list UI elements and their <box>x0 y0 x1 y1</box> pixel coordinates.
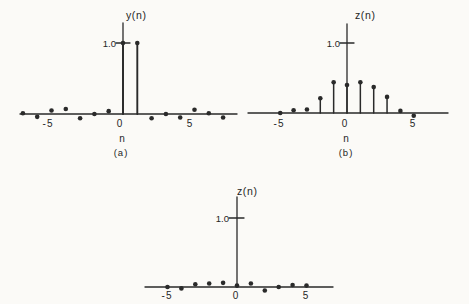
plot-a-caption: (a) <box>101 147 141 158</box>
plot-b-caption: (b) <box>326 147 366 158</box>
plot-b-xtick-neg5: -5 <box>268 118 290 129</box>
stem-plot-a: y(n) 1.0 -5 0 5 n (a) <box>0 0 245 165</box>
plot-c-xtick-0: 0 <box>225 290 247 301</box>
plot-a-x-axis-label: n <box>111 133 133 144</box>
plot-c-xtick-neg5: -5 <box>156 290 178 301</box>
figure-canvas: y(n) 1.0 -5 0 5 n (a) z(n) 1.0 -5 0 5 n … <box>0 0 469 304</box>
plot-b-ytick-label: 1.0 <box>316 38 340 49</box>
plot-b-xtick-0: 0 <box>334 118 356 129</box>
plot-c-y-axis-label: z(n) <box>237 186 257 197</box>
plot-a-ytick-label: 1.0 <box>92 38 116 49</box>
plot-a-y-axis-label: y(n) <box>126 10 146 21</box>
stem-plot-b: z(n) 1.0 -5 0 5 n (b) <box>235 0 469 165</box>
stem-plot-c: z(n) 1.0 -5 0 5 <box>120 180 380 304</box>
plot-a-xtick-0: 0 <box>109 118 131 129</box>
plot-b-y-axis-label: z(n) <box>355 10 375 21</box>
stem-plot-c-drawing <box>120 180 380 304</box>
plot-a-xtick-neg5: -5 <box>37 118 59 129</box>
plot-a-xtick-5: 5 <box>179 118 201 129</box>
plot-b-xtick-5: 5 <box>402 118 424 129</box>
plot-c-xtick-5: 5 <box>295 290 317 301</box>
plot-c-ytick-label: 1.0 <box>205 213 229 224</box>
plot-b-x-axis-label: n <box>335 133 357 144</box>
